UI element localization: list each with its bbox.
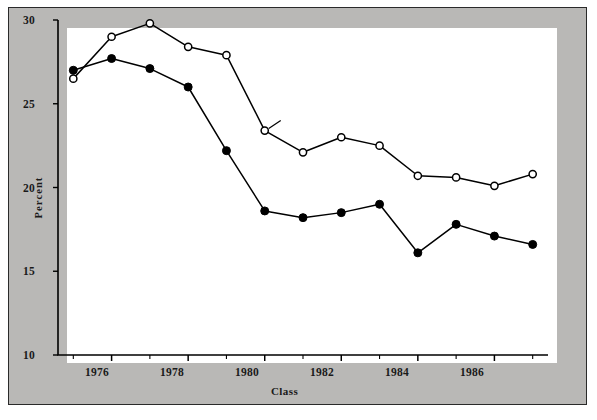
x-tick-label-1978: 1978 [147, 366, 197, 378]
x-tick-label-1982: 1982 [297, 366, 347, 378]
y-tick-label-20: 20 [1, 182, 35, 194]
y-tick-label-30: 30 [1, 14, 35, 26]
x-tick-label-1976: 1976 [72, 366, 122, 378]
y-axis-label: Percent [33, 163, 44, 233]
y-tick-label-10: 10 [1, 349, 35, 361]
chart-figure: 30 25 20 15 10 1976 1978 1980 1982 1984 … [0, 0, 597, 420]
x-tick-label-1984: 1984 [372, 366, 422, 378]
figure-frame: 30 25 20 15 10 1976 1978 1980 1982 1984 … [8, 7, 587, 405]
y-tick-label-25: 25 [1, 98, 35, 110]
x-axis-label: Class [271, 385, 298, 397]
plot-area [67, 28, 557, 363]
y-tick-label-15: 15 [1, 265, 35, 277]
x-tick-label-1980: 1980 [222, 366, 272, 378]
x-tick-label-1986: 1986 [447, 366, 497, 378]
